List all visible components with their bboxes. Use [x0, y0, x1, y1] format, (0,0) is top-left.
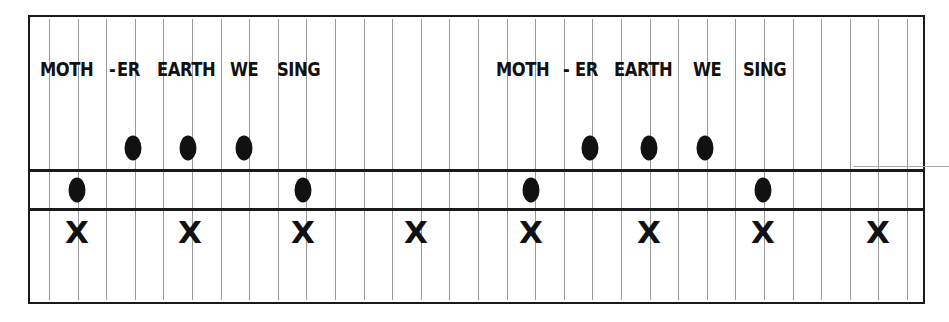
rhythm-notation-diagram: MOTH-EREARTHWESINGXXXXMOTH-EREARTHWESING…	[0, 0, 949, 322]
gridline	[478, 19, 479, 300]
note-dot-high	[236, 136, 253, 161]
note-dot-low	[69, 178, 86, 203]
lyric-syllable: -	[109, 60, 115, 79]
staff-line-lower	[29, 208, 923, 211]
beat-x-mark: X	[404, 217, 428, 248]
gridline	[850, 19, 851, 300]
gridline	[106, 19, 107, 300]
stray-gray-line	[853, 166, 949, 167]
beat-x-mark: X	[637, 217, 661, 248]
note-dot-high	[180, 136, 197, 161]
gridline	[878, 19, 879, 300]
gridline	[735, 19, 736, 300]
note-dot-low	[755, 178, 772, 203]
note-dot-high	[697, 136, 714, 161]
lyric-syllable: MOTH	[496, 60, 549, 79]
gridline	[364, 19, 365, 300]
note-dot-low	[295, 178, 312, 203]
gridline	[793, 19, 794, 300]
beat-x-mark: X	[751, 217, 775, 248]
lyric-syllable: MOTH	[40, 60, 93, 79]
beat-x-mark: X	[291, 217, 315, 248]
gridline	[335, 19, 336, 300]
beat-x-mark: X	[866, 217, 890, 248]
beat-x-mark: X	[178, 217, 202, 248]
gridline	[392, 19, 393, 300]
lyric-syllable: ER	[117, 60, 140, 79]
gridline	[449, 19, 450, 300]
lyric-syllable: SING	[743, 60, 786, 79]
gridline	[221, 19, 222, 300]
lyric-syllable: -	[563, 60, 569, 79]
lyric-syllable: WE	[230, 60, 258, 79]
beat-x-mark: X	[65, 217, 89, 248]
lyric-syllable: WE	[693, 60, 721, 79]
note-dot-low	[523, 178, 540, 203]
lyric-syllable: EARTH	[614, 60, 672, 79]
gridline	[907, 19, 908, 300]
staff-line-upper	[29, 169, 923, 172]
note-dot-high	[125, 136, 142, 161]
gridline	[821, 19, 822, 300]
lyric-syllable: SING	[277, 60, 320, 79]
beat-x-mark: X	[519, 217, 543, 248]
gridline	[678, 19, 679, 300]
lyric-syllable: ER	[575, 60, 598, 79]
note-dot-high	[582, 136, 599, 161]
lyric-syllable: EARTH	[157, 60, 215, 79]
note-dot-high	[641, 136, 658, 161]
gridline	[421, 19, 422, 300]
